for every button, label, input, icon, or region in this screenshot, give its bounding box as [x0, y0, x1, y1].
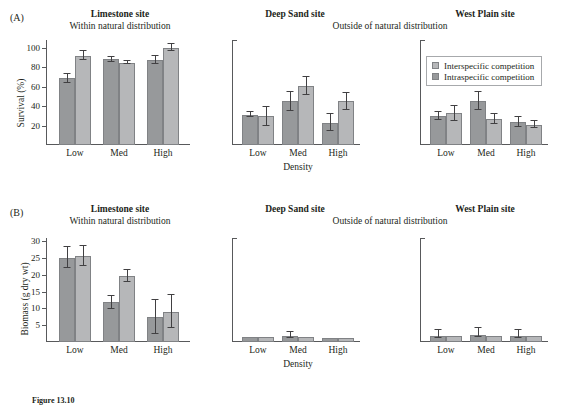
- errorbar-cap: [343, 109, 350, 110]
- bar-low-intraspecific[interactable]: [59, 258, 75, 343]
- errorbar-cap: [124, 281, 131, 282]
- y-axis-line: [46, 238, 47, 342]
- bar-med-interspecific[interactable]: [119, 63, 135, 145]
- bar-low-intraspecific[interactable]: [430, 116, 446, 145]
- errorbar-cap: [515, 329, 522, 330]
- bar-med-intraspecific[interactable]: [103, 59, 119, 145]
- bar-med-interspecific[interactable]: [298, 337, 314, 342]
- bar-low-intraspecific[interactable]: [242, 337, 258, 342]
- errorbar-cap: [327, 113, 334, 114]
- errorbar-low-interspecific: [83, 246, 84, 266]
- x-category-low: Low: [249, 148, 266, 158]
- y-tick-label: 15: [14, 287, 40, 297]
- panel-b-limestone-title: Limestone site: [40, 204, 200, 214]
- errorbar-cap: [435, 337, 442, 338]
- y-tick: [42, 126, 46, 127]
- errorbar-cap: [287, 91, 294, 92]
- errorbar-cap: [435, 329, 442, 330]
- bar-high-interspecific[interactable]: [163, 48, 179, 145]
- y-tick-label: 100: [14, 43, 40, 53]
- errorbar-cap: [515, 337, 522, 338]
- bar-high-intraspecific[interactable]: [322, 338, 338, 342]
- figure-caption: Figure 13.10: [32, 396, 152, 405]
- errorbar-cap: [247, 116, 254, 117]
- errorbar-cap: [515, 126, 522, 127]
- bar-low-intraspecific[interactable]: [59, 78, 75, 145]
- panel-b-westplain-title: West Plain site: [420, 204, 550, 214]
- y-tick-label: 60: [14, 82, 40, 92]
- y-tick: [42, 67, 46, 68]
- panel-b-letter: (B): [10, 207, 23, 218]
- errorbar-high-intraspecific: [155, 300, 156, 334]
- bar-high-interspecific[interactable]: [526, 336, 542, 342]
- errorbar-cap: [108, 61, 115, 62]
- x-category-med: Med: [477, 148, 494, 158]
- errorbar-cap: [515, 116, 522, 117]
- legend-item-intraspecific[interactable]: Intraspecific competition: [432, 71, 534, 82]
- x-category-med: Med: [110, 148, 127, 158]
- chart-b-westplain: Low Med High: [420, 238, 548, 342]
- y-axis-line: [232, 40, 233, 145]
- y-tick: [42, 106, 46, 107]
- errorbar-cap: [108, 56, 115, 57]
- legend-swatch-intraspecific-icon: [432, 73, 439, 80]
- x-category-med: Med: [477, 345, 494, 355]
- bar-high-interspecific[interactable]: [338, 338, 354, 342]
- errorbar-cap: [491, 123, 498, 124]
- errorbar-cap: [152, 63, 159, 64]
- y-tick-label: 40: [14, 101, 40, 111]
- chart-a-limestone: 20 40 60 80 100 Low Med High: [46, 40, 190, 145]
- y-tick-label: 5: [14, 320, 40, 330]
- errorbar-med-interspecific: [306, 77, 307, 95]
- bar-low-interspecific[interactable]: [258, 337, 274, 342]
- errorbar-cap: [303, 94, 310, 95]
- errorbar-cap: [152, 333, 159, 334]
- panel-a-westplain-title: West Plain site: [420, 9, 550, 19]
- bar-med-interspecific[interactable]: [298, 86, 314, 145]
- errorbar-cap: [475, 336, 482, 337]
- y-tick: [42, 258, 46, 259]
- panel-b-deepsand-title: Deep Sand site: [230, 204, 360, 214]
- bar-med-interspecific[interactable]: [486, 336, 502, 342]
- errorbar-cap: [451, 105, 458, 106]
- legend-label-intraspecific: Intraspecific competition: [444, 72, 534, 82]
- x-category-med: Med: [289, 345, 306, 355]
- bar-low-intraspecific[interactable]: [242, 115, 258, 145]
- y-tick: [42, 87, 46, 88]
- errorbar-cap: [475, 327, 482, 328]
- y-tick: [42, 275, 46, 276]
- x-category-low: Low: [66, 148, 83, 158]
- x-category-high: High: [517, 148, 536, 158]
- panel-b-outside-heading: Outside of natural distribution: [260, 216, 520, 226]
- chart-a-deepsand: Low Med High Density: [232, 40, 360, 145]
- bar-low-interspecific[interactable]: [75, 256, 91, 342]
- errorbar-cap: [475, 91, 482, 92]
- legend-item-interspecific[interactable]: Interspecific competition: [432, 60, 534, 71]
- y-tick-label: 20: [14, 270, 40, 280]
- errorbar-cap: [80, 245, 87, 246]
- panel-a-within-heading: Within natural distribution: [40, 21, 200, 31]
- y-tick-label: 10: [14, 303, 40, 313]
- y-tick: [42, 48, 46, 49]
- errorbar-cap: [64, 267, 71, 268]
- y-tick-label: 30: [14, 236, 40, 246]
- x-category-high: High: [154, 345, 173, 355]
- y-axis-line: [420, 40, 421, 145]
- bar-low-interspecific[interactable]: [446, 336, 462, 342]
- bar-med-interspecific[interactable]: [119, 276, 135, 342]
- errorbar-cap: [80, 265, 87, 266]
- bar-low-interspecific[interactable]: [75, 56, 91, 145]
- panel-a-limestone-title: Limestone site: [40, 9, 200, 19]
- x-category-high: High: [154, 148, 173, 158]
- errorbar-cap: [64, 82, 71, 83]
- errorbar-high-intraspecific: [330, 114, 331, 132]
- errorbar-cap: [80, 50, 87, 51]
- y-axis-line: [232, 238, 233, 342]
- errorbar-cap: [287, 331, 294, 332]
- bar-high-intraspecific[interactable]: [147, 60, 163, 145]
- errorbar-cap: [124, 269, 131, 270]
- errorbar-low-interspecific: [266, 107, 267, 126]
- errorbar-cap: [64, 246, 71, 247]
- errorbar-cap: [168, 43, 175, 44]
- errorbar-cap: [531, 120, 538, 121]
